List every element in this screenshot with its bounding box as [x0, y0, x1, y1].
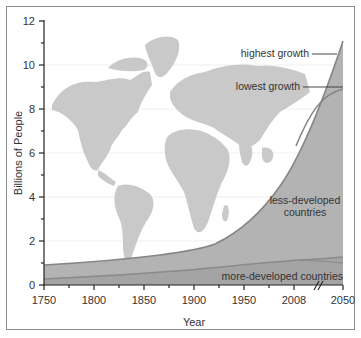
y-axis [39, 20, 44, 286]
x-axis [44, 285, 343, 290]
svg-text:4: 4 [29, 191, 35, 203]
svg-text:1850: 1850 [132, 294, 156, 306]
lowest-growth-label: lowest growth [236, 80, 300, 92]
x-tick-labels: 1750 1800 1850 1900 1950 2008 2050 [32, 294, 355, 306]
highest-growth-label: highest growth [241, 47, 309, 59]
svg-text:1900: 1900 [182, 294, 206, 306]
less-developed-label-line1: less-developed [270, 194, 341, 206]
svg-text:1800: 1800 [82, 294, 106, 306]
svg-text:8: 8 [29, 103, 35, 115]
population-chart: highest growth lowest growth less-develo… [0, 0, 361, 338]
svg-text:2008: 2008 [282, 294, 306, 306]
svg-text:10: 10 [23, 59, 35, 71]
svg-text:2: 2 [29, 235, 35, 247]
more-developed-label: more-developed countries [222, 270, 343, 282]
less-developed-label-line2: countries [284, 206, 327, 218]
y-axis-title: Billions of People [12, 111, 24, 195]
svg-text:1750: 1750 [32, 294, 56, 306]
svg-text:12: 12 [23, 15, 35, 27]
svg-text:0: 0 [29, 279, 35, 291]
svg-text:1950: 1950 [232, 294, 256, 306]
y-tick-labels: 0 2 4 6 8 10 12 [23, 15, 35, 291]
svg-text:2050: 2050 [331, 294, 355, 306]
x-axis-title: Year [183, 316, 206, 328]
svg-text:6: 6 [29, 147, 35, 159]
